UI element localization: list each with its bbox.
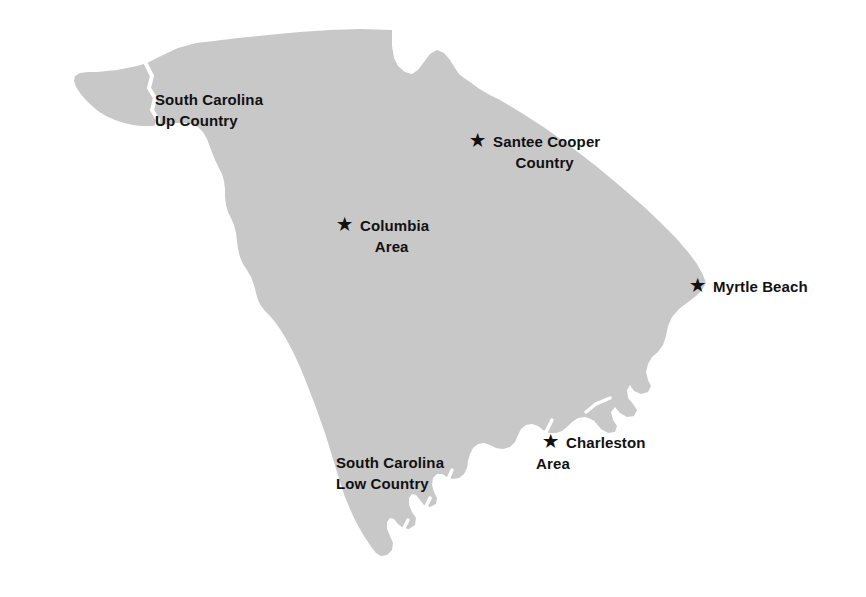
city-label-columbia-line1: Columbia <box>360 215 429 236</box>
state-outline-svg <box>0 0 866 597</box>
region-label-low-country: South Carolina Low Country <box>336 452 444 494</box>
city-label-santee-cooper-line2: Country <box>489 152 600 173</box>
city-label-santee-cooper-line1: Santee Cooper <box>493 131 600 152</box>
city-marker-santee-cooper[interactable]: ★ Santee Cooper Country <box>470 131 600 173</box>
star-icon: ★ <box>470 131 485 150</box>
south-carolina-map: South Carolina Up Country South Carolina… <box>0 0 866 597</box>
city-label-columbia-text: Columbia Area <box>360 215 429 257</box>
region-label-up-country: South Carolina Up Country <box>155 89 263 131</box>
city-label-myrtle-beach-line1: Myrtle Beach <box>713 276 808 297</box>
region-label-low-country-line2: Low Country <box>336 473 444 494</box>
city-label-columbia-line2: Area <box>354 236 429 257</box>
star-icon: ★ <box>543 432 558 451</box>
region-label-up-country-line2: Up Country <box>155 110 263 131</box>
city-marker-charleston[interactable]: ★ Charleston Area <box>543 432 645 474</box>
city-label-charleston-line2: Area <box>536 453 645 474</box>
city-marker-myrtle-beach[interactable]: ★ Myrtle Beach <box>690 276 808 297</box>
star-icon: ★ <box>690 276 705 295</box>
city-label-santee-cooper-text: Santee Cooper Country <box>493 131 600 173</box>
city-label-charleston-text: Charleston Area <box>566 432 645 474</box>
city-label-myrtle-beach-text: Myrtle Beach <box>713 276 808 297</box>
region-label-low-country-line1: South Carolina <box>336 452 444 473</box>
star-icon: ★ <box>337 215 352 234</box>
city-marker-columbia[interactable]: ★ Columbia Area <box>337 215 429 257</box>
city-label-charleston-line1: Charleston <box>566 432 645 453</box>
region-label-up-country-line1: South Carolina <box>155 89 263 110</box>
